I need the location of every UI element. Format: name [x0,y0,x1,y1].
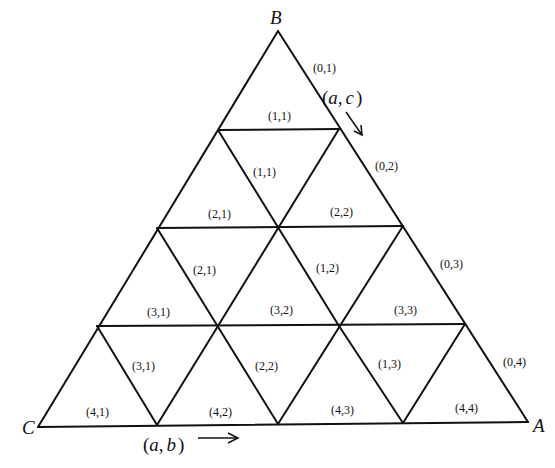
vertex-label-a: A [531,415,545,436]
cell-label: (4,2) [209,405,232,419]
cell-label: (1,2) [316,261,339,275]
cell-label: (1,3) [378,357,401,371]
edge-label: (0,3) [440,257,463,271]
cell-label: (3,1) [147,305,170,319]
triangle-grid-diagram: B C A (0,1)(0,2)(0,3)(0,4) (1,1)(1,1)(2,… [0,0,555,468]
cell-label: (4,1) [86,405,109,419]
cell-label: (1,1) [253,165,276,179]
cell-label: (3,2) [270,303,293,317]
arrow-icon-ab [198,433,238,443]
axis-label-ac: (a,c) [322,87,362,109]
cell-label: (3,1) [132,359,155,373]
cell-label: (1,1) [268,109,291,123]
vertex-label-b: B [270,7,282,28]
cell-label: (2,2) [255,359,278,373]
cell-label: (4,4) [455,401,478,415]
edge-label: (0,2) [375,159,398,173]
cell-label: (2,1) [193,263,216,277]
edge-label: (0,1) [313,61,336,75]
cell-label: (2,1) [208,207,231,221]
grid-line [97,324,465,326]
cell-labels: (1,1)(1,1)(2,1)(2,2)(2,1)(1,2)(3,1)(3,2)… [86,109,478,419]
grid-line [38,422,528,427]
axis-label-ab: (a,b) [143,434,184,456]
grid-lines [38,31,528,427]
arrow-icon-ac [346,112,362,135]
cell-label: (2,2) [330,205,353,219]
edge-label: (0,4) [503,355,526,369]
cell-label: (3,3) [394,303,417,317]
vertex-label-c: C [22,417,35,438]
grid-line [218,129,339,130]
cell-label: (4,3) [331,403,354,417]
